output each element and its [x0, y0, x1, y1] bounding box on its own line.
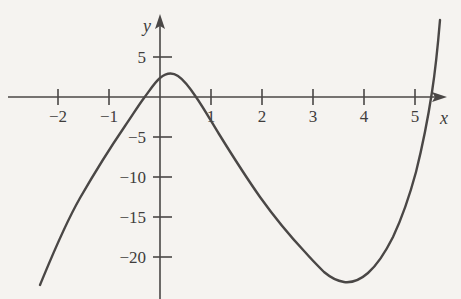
- cubic-curve: [40, 20, 440, 285]
- x-axis-label: x: [439, 108, 448, 128]
- y-tick-label--15: −15: [119, 208, 146, 227]
- figure-canvas: −2 −1 1 2 3 4 5 5 −5 −10 −15 −20 x y: [0, 0, 461, 299]
- y-tick-label--20: −20: [119, 248, 146, 267]
- y-tick-label--10: −10: [119, 168, 146, 187]
- y-tick-marks: [153, 57, 172, 257]
- y-tick-label-5: 5: [138, 48, 147, 67]
- x-tick-label-3: 3: [309, 107, 318, 126]
- x-tick-label-5: 5: [411, 107, 420, 126]
- x-tick-label-2: 2: [258, 107, 267, 126]
- cubic-graph-svg: −2 −1 1 2 3 4 5 5 −5 −10 −15 −20 x y: [0, 0, 461, 299]
- x-tick-label--1: −1: [100, 107, 118, 126]
- x-tick-label-4: 4: [360, 107, 369, 126]
- x-axis: [8, 92, 447, 102]
- y-axis-label: y: [141, 16, 151, 36]
- y-tick-label--5: −5: [128, 128, 146, 147]
- x-tick-label--2: −2: [49, 107, 67, 126]
